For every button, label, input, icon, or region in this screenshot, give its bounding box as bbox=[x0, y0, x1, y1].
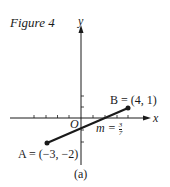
slope-fraction: 37 bbox=[119, 122, 123, 137]
figure-caption: (a) bbox=[74, 167, 87, 182]
point-a bbox=[45, 141, 50, 146]
point-b-label: B = (4, 1) bbox=[110, 93, 157, 108]
slope-label: m = 37 bbox=[96, 121, 122, 137]
y-axis-label: y bbox=[78, 14, 83, 29]
origin-label: O bbox=[70, 117, 79, 132]
slope-denominator: 7 bbox=[119, 130, 123, 137]
slope-prefix: m = bbox=[96, 121, 119, 135]
x-axis-label: x bbox=[153, 111, 158, 126]
point-a-label: A = (−3, −2) bbox=[18, 147, 78, 162]
x-axis-arrow-icon bbox=[143, 116, 151, 121]
